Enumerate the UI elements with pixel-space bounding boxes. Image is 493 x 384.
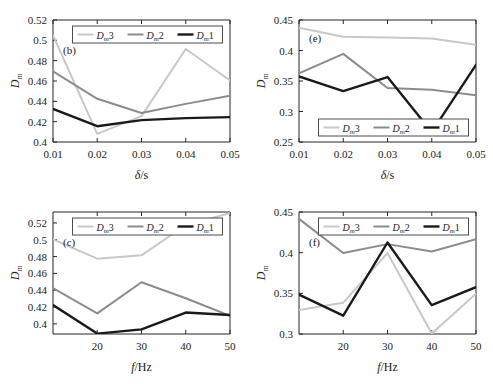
x-tick-label: 40 (426, 340, 438, 352)
x-axis-label: f/Hz (377, 360, 398, 374)
y-axis-label: Dm (254, 266, 270, 282)
series-line-Dm3 (299, 28, 476, 45)
y-tick-label: 0.52 (28, 14, 47, 26)
x-tick-label: 0.02 (334, 148, 353, 160)
y-tick-label: 0.42 (28, 301, 47, 313)
y-tick-label: 0.45 (274, 14, 294, 26)
y-axis-label: Dm (8, 74, 24, 90)
x-tick-label: 0.03 (132, 148, 152, 160)
x-tick-label: 20 (338, 340, 350, 352)
x-axis-label: δ/s (381, 168, 395, 182)
x-tick-label: 20 (92, 340, 104, 352)
y-tick-label: 0.44 (28, 95, 48, 107)
x-tick-label: 0.03 (378, 148, 398, 160)
x-axis-label: δ/s (135, 168, 149, 182)
y-tick-label: 0.35 (274, 287, 294, 299)
y-tick-label: 0.5 (33, 34, 47, 46)
series-group (299, 28, 476, 132)
panel-tag: (b) (63, 44, 76, 57)
series-line-Dm1 (53, 305, 230, 334)
y-tick-label: 0.5 (33, 234, 47, 246)
y-tick-label: 0.35 (274, 75, 294, 87)
series-line-Dm1 (53, 109, 230, 126)
series-line-Dm2 (53, 282, 230, 316)
x-tick-label: 0.05 (220, 148, 240, 160)
y-tick-label: 0.44 (28, 284, 48, 296)
x-tick-label: 0.05 (466, 148, 486, 160)
series-line-Dm2 (299, 54, 476, 95)
y-tick-label: 0.46 (28, 267, 48, 279)
chart-panel-e: 0.250.30.350.40.450.010.020.030.040.05(e… (246, 0, 493, 192)
y-tick-label: 0.52 (28, 217, 47, 229)
y-tick-label: 0.25 (274, 136, 294, 148)
series-group (53, 35, 230, 134)
y-axis-label: Dm (254, 74, 270, 90)
y-tick-label: 0.3 (279, 106, 293, 118)
x-tick-label: 30 (382, 340, 394, 352)
panel-tag: (e) (309, 32, 322, 45)
x-axis-label: f/Hz (131, 360, 152, 374)
series-line-Dm3 (299, 253, 476, 334)
y-tick-label: 0.42 (28, 116, 47, 128)
x-tick-label: 0.01 (43, 148, 62, 160)
figure-container: 0.40.420.440.460.480.50.520.010.020.030.… (0, 0, 493, 384)
y-tick-label: 0.4 (279, 247, 293, 259)
x-tick-label: 50 (471, 340, 483, 352)
y-axis-label: Dm (8, 266, 24, 282)
x-tick-label: 40 (180, 340, 192, 352)
y-tick-label: 0.46 (28, 75, 48, 87)
chart-panel-b: 0.40.420.440.460.480.50.520.010.020.030.… (0, 0, 247, 192)
chart-panel-c: 0.40.420.440.460.480.50.5220304050(c)Dmf… (0, 192, 247, 384)
panel-tag: (f) (309, 236, 320, 249)
x-tick-label: 0.01 (289, 148, 308, 160)
y-tick-label: 0.48 (28, 251, 48, 263)
y-tick-label: 0.3 (279, 328, 293, 340)
y-tick-label: 0.4 (279, 45, 293, 57)
y-tick-label: 0.4 (33, 318, 47, 330)
x-tick-label: 0.04 (422, 148, 442, 160)
series-group (299, 219, 476, 334)
x-tick-label: 0.02 (88, 148, 107, 160)
x-tick-label: 30 (136, 340, 148, 352)
chart-panel-f: 0.30.350.40.4520304050(f)Dmf/HzDm3Dm2Dm1 (246, 192, 493, 384)
y-tick-label: 0.45 (274, 206, 294, 218)
x-tick-label: 0.04 (176, 148, 196, 160)
x-tick-label: 50 (225, 340, 237, 352)
panel-tag: (c) (63, 236, 76, 249)
y-tick-label: 0.48 (28, 55, 48, 67)
y-tick-label: 0.4 (33, 136, 47, 148)
